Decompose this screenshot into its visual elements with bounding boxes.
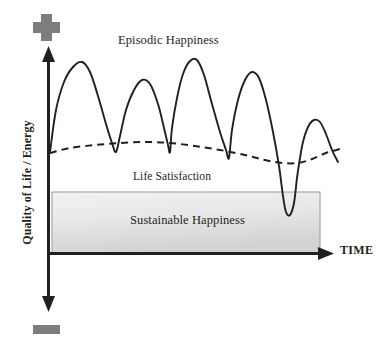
y-axis-label: Quality of Life / Energy (20, 113, 35, 253)
episodic-happiness-label: Episodic Happiness (118, 33, 219, 48)
diagram-canvas: Episodic Happiness Life Satisfaction Sus… (0, 0, 392, 350)
y-axis (42, 46, 55, 312)
minus-sign-icon (33, 325, 60, 334)
x-axis-label: TIME (340, 243, 373, 258)
sustainable-happiness-label: Sustainable Happiness (130, 213, 245, 228)
life-satisfaction-curve (50, 142, 340, 163)
life-satisfaction-label: Life Satisfaction (133, 170, 211, 182)
plus-sign-icon (33, 14, 60, 41)
